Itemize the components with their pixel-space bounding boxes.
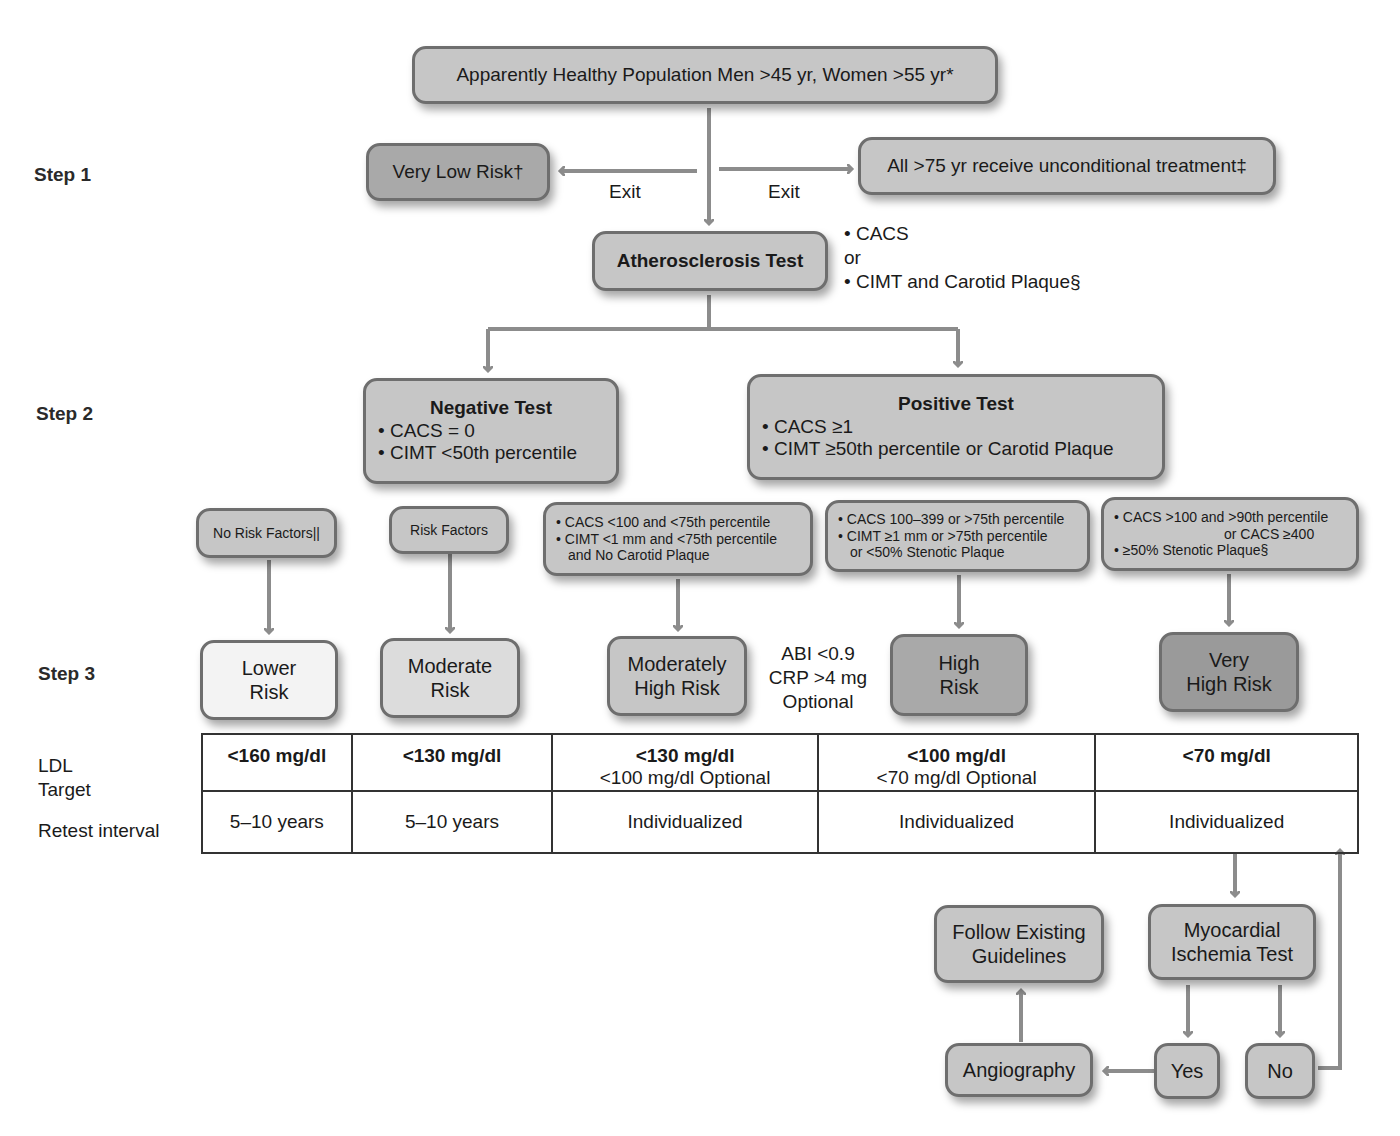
risk-line: High Risk <box>634 676 720 700</box>
option-cacs: • CACS <box>844 222 1081 246</box>
label-line: Target <box>38 778 91 802</box>
retest-interval-row: 5–10 years 5–10 years Individualized Ind… <box>202 791 1358 853</box>
very-low-risk-text: Very Low Risk† <box>393 161 524 184</box>
risk-line: Risk <box>250 680 289 704</box>
no-text: No <box>1267 1059 1293 1083</box>
risk-line: Lower <box>242 656 296 680</box>
ldl-cell: <130 mg/dl<100 mg/dl Optional <box>552 734 818 791</box>
moderately-high-risk-node: Moderately High Risk <box>607 636 747 716</box>
atherosclerosis-test-options: • CACS or • CIMT and Carotid Plaque§ <box>844 222 1081 294</box>
ldl-cell: <100 mg/dl<70 mg/dl Optional <box>818 734 1096 791</box>
step-1-label: Step 1 <box>34 164 91 186</box>
positive-test-bullet: • CACS ≥1 <box>762 416 1114 439</box>
risk-factors-node: Risk Factors <box>389 506 509 554</box>
option-or: or <box>844 246 1081 270</box>
criteria-line: • ≥50% Stenotic Plaque§ <box>1114 542 1268 559</box>
ldl-optional: <70 mg/dl Optional <box>819 767 1095 789</box>
no-risk-factors-node: No Risk Factors|| <box>196 508 337 558</box>
criteria-line: • CIMT ≥1 mm or >75th percentile <box>838 528 1048 545</box>
ldl-main: <130 mg/dl <box>553 745 817 767</box>
negative-test-node: Negative Test • CACS = 0 • CIMT <50th pe… <box>363 378 619 484</box>
myocardial-ischemia-test-node: Myocardial Ischemia Test <box>1148 904 1316 980</box>
retest-interval-label: Retest interval <box>38 820 159 842</box>
risk-line: Moderate <box>408 654 493 678</box>
ldl-target-label: LDL Target <box>38 754 91 802</box>
ldl-target-table: <160 mg/dl <130 mg/dl <130 mg/dl<100 mg/… <box>201 733 1359 854</box>
option-cimt: • CIMT and Carotid Plaque§ <box>844 270 1081 294</box>
guidelines-line: Guidelines <box>972 944 1067 968</box>
exit-right-label: Exit <box>768 181 800 203</box>
unconditional-treatment-node: All >75 yr receive unconditional treatme… <box>858 137 1276 195</box>
label-line: LDL <box>38 754 91 778</box>
negative-test-title: Negative Test <box>430 397 552 420</box>
positive-test-bullet: • CIMT ≥50th percentile or Carotid Plaqu… <box>762 438 1114 461</box>
negative-test-bullet: • CACS = 0 <box>378 420 577 443</box>
step-2-label: Step 2 <box>36 403 93 425</box>
ldl-cell: <130 mg/dl <box>352 734 553 791</box>
high-criteria-node: • CACS 100–399 or >75th percentile • CIM… <box>825 500 1090 572</box>
retest-cell: Individualized <box>818 791 1096 853</box>
risk-line: Very <box>1209 648 1249 672</box>
criteria-line: • CACS >100 and >90th percentile <box>1114 509 1328 526</box>
moderately-high-criteria-node: • CACS <100 and <75th percentile • CIMT … <box>543 502 813 576</box>
population-text: Apparently Healthy Population Men >45 yr… <box>456 64 953 87</box>
retest-cell: 5–10 years <box>202 791 352 853</box>
ldl-main: <160 mg/dl <box>203 745 351 767</box>
retest-cell: 5–10 years <box>352 791 553 853</box>
retest-cell: Individualized <box>1095 791 1358 853</box>
follow-guidelines-node: Follow Existing Guidelines <box>934 905 1104 983</box>
note-line: Optional <box>762 690 874 714</box>
ldl-cell: <70 mg/dl <box>1095 734 1358 791</box>
very-low-risk-node: Very Low Risk† <box>366 143 550 201</box>
criteria-line: • CACS 100–399 or >75th percentile <box>838 511 1064 528</box>
very-high-criteria-node: • CACS >100 and >90th percentile or CACS… <box>1101 497 1359 571</box>
population-node: Apparently Healthy Population Men >45 yr… <box>412 46 998 104</box>
ldl-main: <130 mg/dl <box>353 745 552 767</box>
criteria-line: or <50% Stenotic Plaque <box>838 544 1005 561</box>
risk-factors-text: Risk Factors <box>410 522 488 539</box>
criteria-line: • CIMT <1 mm and <75th percentile <box>556 531 777 548</box>
ldl-cell: <160 mg/dl <box>202 734 352 791</box>
yes-text: Yes <box>1171 1059 1204 1083</box>
criteria-line: and No Carotid Plaque <box>556 547 710 564</box>
angiography-node: Angiography <box>945 1043 1093 1097</box>
high-risk-node: High Risk <box>890 634 1028 716</box>
risk-line: High <box>938 651 979 675</box>
yes-node: Yes <box>1154 1043 1220 1099</box>
risk-line: Risk <box>940 675 979 699</box>
exit-left-label: Exit <box>609 181 641 203</box>
ldl-optional: <100 mg/dl Optional <box>553 767 817 789</box>
moderate-risk-node: Moderate Risk <box>380 638 520 718</box>
risk-line: Moderately <box>628 652 727 676</box>
ldl-main: <70 mg/dl <box>1096 745 1357 767</box>
criteria-line: • CACS <100 and <75th percentile <box>556 514 770 531</box>
atherosclerosis-test-node: Atherosclerosis Test <box>592 231 828 291</box>
unconditional-treatment-text: All >75 yr receive unconditional treatme… <box>887 155 1247 178</box>
risk-line: High Risk <box>1186 672 1272 696</box>
ldl-target-row: <160 mg/dl <130 mg/dl <130 mg/dl<100 mg/… <box>202 734 1358 791</box>
ischemia-line: Ischemia Test <box>1171 942 1293 966</box>
positive-test-title: Positive Test <box>898 393 1014 416</box>
negative-test-bullet: • CIMT <50th percentile <box>378 442 577 465</box>
guidelines-line: Follow Existing <box>952 920 1085 944</box>
lower-risk-node: Lower Risk <box>200 640 338 720</box>
step-3-label: Step 3 <box>38 663 95 685</box>
optional-tests-note: ABI <0.9 CRP >4 mg Optional <box>762 642 874 714</box>
angiography-text: Angiography <box>963 1058 1075 1082</box>
atherosclerosis-test-title: Atherosclerosis Test <box>617 250 804 273</box>
criteria-line: or CACS ≥400 <box>1114 526 1314 543</box>
ischemia-line: Myocardial <box>1184 918 1281 942</box>
retest-cell: Individualized <box>552 791 818 853</box>
positive-test-node: Positive Test • CACS ≥1 • CIMT ≥50th per… <box>747 374 1165 480</box>
note-line: ABI <0.9 <box>762 642 874 666</box>
note-line: CRP >4 mg <box>762 666 874 690</box>
no-risk-factors-text: No Risk Factors|| <box>213 525 320 542</box>
very-high-risk-node: Very High Risk <box>1159 632 1299 712</box>
risk-line: Risk <box>431 678 470 702</box>
no-node: No <box>1245 1043 1315 1099</box>
ldl-main: <100 mg/dl <box>819 745 1095 767</box>
